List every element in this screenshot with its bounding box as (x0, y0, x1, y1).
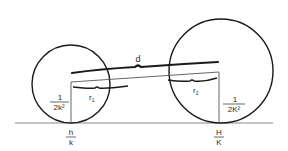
ford-circles-diagram: d r1 r2 1 2k² 1 2K² h k H K (0, 0, 288, 151)
left-position-fraction: h k (66, 128, 76, 147)
r1-label: r1 (89, 93, 95, 103)
svg-text:h: h (69, 128, 73, 137)
svg-text:H: H (216, 128, 222, 137)
right-circle (169, 19, 273, 123)
distance-label: d (135, 54, 140, 64)
svg-text:K: K (216, 138, 222, 147)
distance-brace (72, 62, 218, 73)
svg-text:2k²: 2k² (53, 103, 64, 112)
svg-text:k: k (69, 138, 74, 147)
svg-text:1: 1 (58, 93, 63, 102)
left-height-fraction: 1 2k² (50, 93, 69, 112)
right-height-fraction: 1 2K² (223, 95, 245, 114)
right-position-fraction: H K (214, 128, 224, 147)
svg-text:2K²: 2K² (228, 105, 241, 114)
r2-brace (168, 78, 217, 81)
svg-text:1: 1 (233, 95, 238, 104)
r1-brace (73, 86, 128, 88)
r2-label: r2 (193, 86, 199, 96)
